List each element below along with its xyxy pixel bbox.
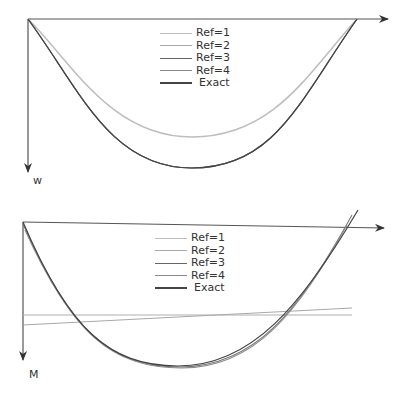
- top-legend: Ref=1 Ref=2 Ref=3 Ref=4 Exact: [160, 27, 230, 90]
- bottom-legend: Ref=1 Ref=2 Ref=3 Ref=4 Exact: [155, 232, 225, 295]
- legend-label: Ref=1: [191, 232, 225, 244]
- legend-label: Ref=4: [196, 65, 230, 77]
- legend-label: Ref=3: [191, 257, 225, 269]
- legend-label: Exact: [196, 77, 230, 89]
- legend-swatch: [160, 58, 192, 59]
- legend-swatch: [155, 287, 187, 289]
- legend-item: Ref=3: [155, 257, 225, 270]
- bottom-y-axis-label: M: [29, 368, 39, 381]
- legend-item: Exact: [160, 77, 230, 90]
- legend-item: Ref=4: [155, 270, 225, 283]
- legend-item: Ref=4: [160, 65, 230, 78]
- legend-item: Ref=1: [160, 27, 230, 40]
- legend-item: Ref=2: [155, 245, 225, 258]
- legend-item: Ref=2: [160, 40, 230, 53]
- legend-label: Ref=2: [191, 245, 225, 257]
- legend-swatch: [155, 250, 187, 251]
- legend-swatch: [160, 33, 192, 34]
- legend-swatch: [160, 70, 192, 71]
- legend-swatch: [155, 275, 187, 276]
- legend-swatch: [160, 45, 192, 46]
- legend-item: Exact: [155, 282, 225, 295]
- legend-label: Ref=3: [196, 52, 230, 64]
- legend-item: Ref=1: [155, 232, 225, 245]
- bottom-x-axis: [23, 222, 384, 228]
- legend-label: Ref=2: [196, 40, 230, 52]
- legend-swatch: [155, 263, 187, 264]
- legend-label: Ref=1: [196, 27, 230, 39]
- top-y-axis-label: w: [33, 174, 42, 187]
- legend-swatch: [155, 238, 187, 239]
- legend-item: Ref=3: [160, 52, 230, 65]
- legend-label: Ref=4: [191, 270, 225, 282]
- legend-swatch: [160, 82, 192, 84]
- bottom-line-ref2: [23, 308, 352, 325]
- legend-label: Exact: [191, 282, 225, 294]
